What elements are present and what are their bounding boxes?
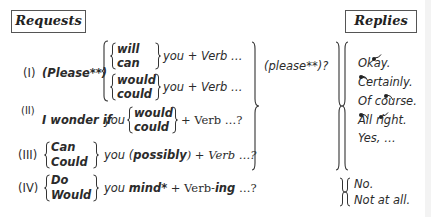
please-suffix: (please**)? [264, 59, 328, 73]
left-brace-would-could [110, 73, 116, 101]
request-label-i: (I) [23, 66, 35, 80]
modal-would: would [117, 73, 156, 87]
modal-do-iv: Do [51, 173, 68, 187]
left-brace-large [101, 40, 109, 102]
request-please: (Please**) [42, 66, 107, 80]
modal-will: will [117, 42, 139, 56]
left-brace-iv [44, 174, 50, 202]
replies-header: Replies [345, 10, 417, 33]
right-brace-large [251, 41, 260, 171]
modal-can: can [117, 56, 140, 70]
modal-could: could [117, 87, 152, 101]
modal-would-iv: Would [51, 188, 91, 202]
reply-not-at-all: Not at all. [354, 193, 410, 207]
right-brace-iv [93, 174, 99, 202]
left-brace-will-can [110, 42, 116, 70]
left-brace-iii [44, 141, 50, 169]
double-brace-negative [339, 177, 351, 207]
request-tail-iv: you mind* + Verb-ing …? [104, 181, 257, 195]
request-i-wonder-if: I wonder if [42, 113, 112, 127]
modal-could-iii: Could [51, 155, 88, 169]
intonation-mark-all-right-1 [358, 105, 370, 124]
right-brace-will-can [155, 42, 161, 70]
intonation-mark-certainly [358, 67, 370, 86]
modal-can-iii: Can [51, 140, 75, 154]
modal-could-ii: could [134, 120, 169, 134]
request-label-iv: (IV) [18, 181, 38, 195]
right-brace-would-could [155, 73, 161, 101]
request-label-ii: (II) [21, 105, 35, 116]
requests-header: Requests [11, 10, 86, 33]
right-brace-iii [93, 141, 99, 169]
modal-would-ii: would [134, 106, 173, 120]
double-brace-positive [335, 41, 349, 171]
request-tail-2: you + Verb … [163, 80, 243, 94]
request-tail-ii: + Verb …? [181, 113, 243, 127]
request-you: you [104, 113, 125, 127]
request-tail-1: you + Verb … [163, 49, 243, 63]
left-brace-ii [127, 106, 133, 134]
request-label-iii: (III) [18, 148, 37, 162]
request-tail-iii: you (possibly) + Verb …? [104, 148, 256, 162]
reply-yes: Yes, … [358, 131, 396, 145]
intonation-mark-of-course [383, 86, 395, 105]
reply-no: No. [354, 177, 373, 191]
intonation-mark-okay [371, 47, 383, 66]
intonation-mark-all-right-2 [378, 105, 390, 124]
page-edge [425, 0, 431, 217]
right-brace-ii [172, 106, 178, 134]
